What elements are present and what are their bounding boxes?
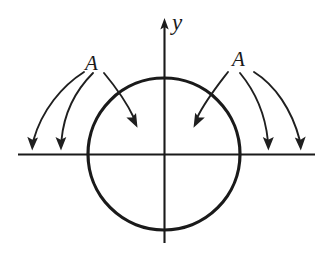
vector-field-diagram: A A y xyxy=(0,0,332,261)
label-field-left: A xyxy=(83,51,98,75)
label-field-right: A xyxy=(230,47,245,71)
label-y-axis: y xyxy=(170,10,183,35)
arrow-outer-left-far xyxy=(27,72,84,151)
arrow-inner-right xyxy=(194,72,229,128)
arrow-outer-left-near xyxy=(56,73,94,151)
figure-container: A A y xyxy=(0,0,332,261)
